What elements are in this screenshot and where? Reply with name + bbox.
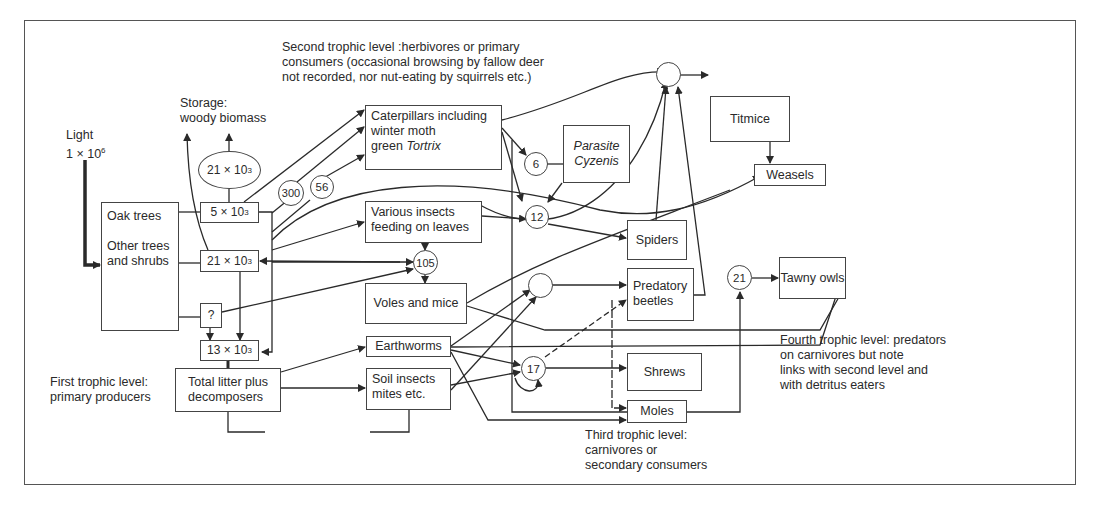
tawny-owls-box: Tawny owls: [779, 257, 846, 299]
titmice-inflow-node: [656, 62, 681, 87]
light-label: Light1 × 106: [66, 128, 106, 162]
caterpillars-line1: Caterpillars including: [371, 109, 487, 123]
litter-pool-box: 13 × 103: [200, 340, 259, 361]
light-title: Light: [66, 128, 93, 142]
various-insects-box: Various insects feeding on leaves: [365, 201, 482, 243]
oak-pool-exp: 3: [244, 205, 248, 220]
unknown-pool-box: ?: [200, 303, 222, 328]
parasite-cyzenis-box: Parasite Cyzenis: [563, 125, 630, 183]
flow-node-12: 12: [525, 205, 549, 229]
tortrix-label: Tortrix: [406, 139, 440, 153]
third-trophic-level-label: Third trophic level: carnivores or secon…: [585, 428, 707, 473]
moles-box: Moles: [627, 400, 687, 423]
storage-oval-exp: 3: [247, 166, 251, 175]
litter-pool-exp: 3: [247, 343, 251, 358]
litter-decomposers-box: Total litter plus decomposers: [175, 368, 281, 412]
flow-node-300: 300: [278, 180, 304, 206]
other-pool-value: 21 × 10: [207, 254, 247, 269]
titmice-box: Titmice: [710, 96, 790, 142]
spiders-box: Spiders: [627, 220, 687, 260]
flow-node-6: 6: [524, 152, 548, 176]
flow-node-17: 17: [521, 356, 546, 381]
oak-pool-value: 5 × 10: [210, 205, 244, 220]
earthworms-box: Earthworms: [366, 336, 451, 357]
caterpillars-box: Caterpillars includingwinter mothgreen T…: [365, 105, 502, 170]
storage-oval-value: 21 × 10: [207, 163, 247, 177]
fourth-trophic-level-label: Fourth trophic level: predators on carni…: [780, 333, 946, 393]
predatory-beetles-box: Predatory beetles: [627, 268, 694, 321]
caterpillars-line2: winter moth: [371, 124, 436, 138]
other-pool-exp: 3: [247, 254, 251, 269]
storage-oval: 21 × 103: [198, 151, 261, 189]
storage-line1: Storage:: [180, 96, 227, 110]
shrews-box: Shrews: [627, 353, 702, 391]
flow-node-56: 56: [310, 175, 334, 199]
flow-node-105: 105: [413, 250, 438, 275]
flow-node-21: 21: [727, 265, 752, 290]
first-trophic-level-label: First trophic level: primary producers: [50, 375, 151, 405]
other-pool-box: 21 × 103: [200, 250, 259, 272]
litter-pool-value: 13 × 10: [207, 343, 247, 358]
oak-pool-box: 5 × 103: [200, 202, 259, 223]
oak-trees-label: Oak trees: [107, 209, 161, 223]
light-exponent: 6: [101, 146, 105, 155]
weasels-box: Weasels: [754, 164, 826, 186]
caterpillars-line3: green: [371, 139, 406, 153]
light-value: 1 × 10: [66, 147, 101, 161]
oak-trees-box: Oak treesOther trees and shrubs: [101, 202, 179, 331]
second-trophic-level-label: Second trophic level :herbivores or prim…: [282, 40, 544, 85]
soil-insects-box: Soil insects mites etc.: [366, 368, 451, 410]
other-trees-label: Other trees and shrubs: [107, 239, 170, 268]
beetles-inflow-node: [528, 273, 553, 298]
storage-line2: woody biomass: [180, 111, 266, 125]
voles-mice-box: Voles and mice: [365, 283, 467, 324]
storage-label: Storage:woody biomass: [180, 96, 266, 126]
